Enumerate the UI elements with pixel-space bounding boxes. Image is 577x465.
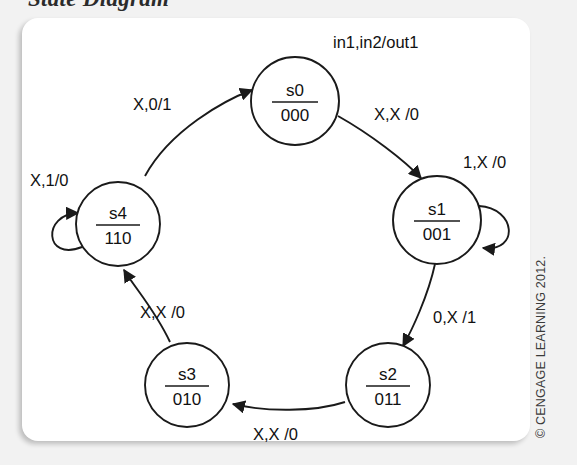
state-output-s0: 000 <box>281 106 309 125</box>
edge-label-s0-to-s1: X,X /0 <box>374 105 419 123</box>
edge-label-s3-to-s4: X,X /0 <box>140 303 185 321</box>
state-output-s3: 010 <box>173 390 201 409</box>
state-node-s3[interactable]: s3 010 <box>145 343 229 427</box>
state-output-s2: 011 <box>374 390 401 409</box>
edge-s1-to-s2 <box>403 264 435 346</box>
state-output-s4: 110 <box>104 229 131 248</box>
state-node-s1[interactable]: s1 001 <box>393 176 481 264</box>
edge-s2-to-s3 <box>233 402 345 410</box>
state-output-s1: 001 <box>423 225 451 244</box>
state-diagram: X,0/1 X,X /0 1,X /0 0,X /1 X,X /0 X,X /0… <box>0 0 577 465</box>
edge-label-s4-to-s0: X,0/1 <box>133 95 172 113</box>
edge-label-s2-to-s3: X,X /0 <box>253 425 298 443</box>
state-label-s0: s0 <box>286 81 304 100</box>
edge-label-s1-self-loop: 1,X /0 <box>463 153 506 171</box>
state-node-s4[interactable]: s4 110 <box>76 182 160 266</box>
state-label-s1: s1 <box>428 200 446 219</box>
state-node-s2[interactable]: s2 011 <box>346 343 430 427</box>
state-node-s0[interactable]: s0 000 <box>251 57 339 145</box>
figure-container: State Diagram © CENGAGE LEARNING 2012. X… <box>0 0 577 465</box>
state-label-s4: s4 <box>109 204 127 223</box>
edge-label-s4-self-loop: X,1/0 <box>30 171 69 189</box>
edge-s0-to-s1 <box>338 116 421 178</box>
state-label-s3: s3 <box>178 365 196 384</box>
state-label-s2: s2 <box>379 365 397 384</box>
edge-label-s1-to-s2: 0,X /1 <box>433 308 476 326</box>
edge-s1-self-loop <box>479 206 509 248</box>
legend-notation-label: in1,in2/out1 <box>333 33 418 51</box>
